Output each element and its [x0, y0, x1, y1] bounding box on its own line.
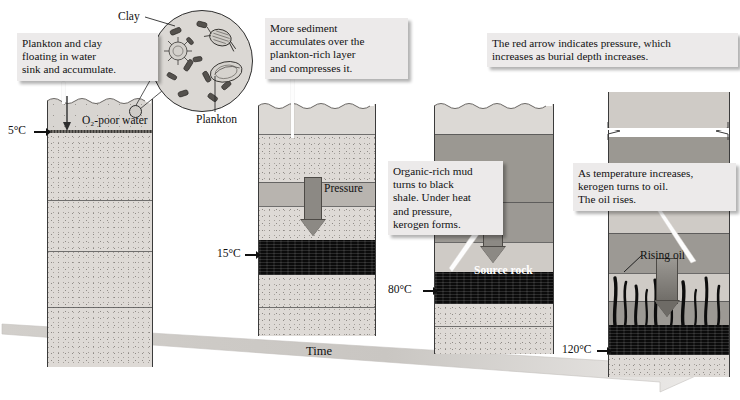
- panel-4-sediment-lower: [609, 355, 729, 377]
- panel-1-column: [47, 99, 153, 367]
- callout-plankton-clay: Plankton and clay floating in water sink…: [17, 33, 158, 81]
- callout-more-sediment: More sediment accumulates over the plank…: [265, 18, 408, 79]
- panel-1-temperature: 5°C: [8, 124, 26, 136]
- panel-1-bed-line-1: [48, 200, 152, 201]
- panel-3-source-rock-label: Source rock: [474, 264, 533, 276]
- callout-red-arrow: The red arrow indicates pressure, which …: [487, 33, 738, 67]
- panel-4-pressure-arrow: [648, 258, 686, 328]
- panel-3-temperature-arrow: [423, 290, 437, 292]
- callout-more-sediment-leader: [291, 78, 294, 138]
- panel-2-bed-line-4: [259, 307, 375, 308]
- diagram-canvas: Time O₂-poor water 5°C Plankton and clay…: [0, 0, 740, 400]
- callout-organic-mud: Organic-rich mud turns to black shale. U…: [388, 161, 503, 235]
- panel-1-bed-line-3: [48, 307, 152, 308]
- panel-3-sediment-lower: [435, 304, 553, 354]
- callout-plankton-clay-leader: [62, 82, 65, 104]
- panel-4-temperature: 120°C: [562, 343, 592, 355]
- panel-2-pressure-label: Pressure: [324, 182, 363, 194]
- inset-clay-leader: [145, 14, 181, 30]
- panel-1-sediment: [48, 133, 152, 367]
- panel-4-break-symbol: [604, 120, 732, 140]
- panel-2-seafloor-wave: [258, 100, 374, 110]
- panel-1-bed-line-2: [48, 251, 152, 252]
- panel-2-sediment-upper: [259, 134, 375, 182]
- panel-3-seafloor-wave: [434, 100, 552, 110]
- panel-4-rising-oil-leader: [620, 252, 644, 276]
- panel-3-bed-line-4: [435, 326, 553, 327]
- inset-plankton-label: Plankton: [196, 113, 237, 125]
- inset-clay-label: Clay: [118, 10, 140, 22]
- panel-2-organic-layer: [259, 240, 375, 275]
- time-axis-label: Time: [306, 344, 332, 359]
- panel-2-bed-line-1: [259, 134, 375, 135]
- panel-3-temperature: 80°C: [388, 283, 412, 295]
- callout-kerogen-oil: As temperature increases, kerogen turns …: [573, 163, 736, 211]
- panel-2-temperature-arrow: [245, 254, 260, 256]
- panel-2-temperature: 15°C: [217, 247, 241, 259]
- panel-4-temperature-arrow: [597, 350, 611, 352]
- panel-3-source-rock: [435, 272, 553, 304]
- panel-2-sediment-lower: [259, 275, 375, 336]
- panel-1-temperature-arrow: [34, 131, 50, 133]
- inset-plankton-leader: [206, 72, 224, 114]
- panel-3-bed-line-1: [435, 134, 553, 135]
- magnifier-target-dot: [129, 105, 142, 118]
- callout-kerogen-oil-leader: [652, 205, 702, 265]
